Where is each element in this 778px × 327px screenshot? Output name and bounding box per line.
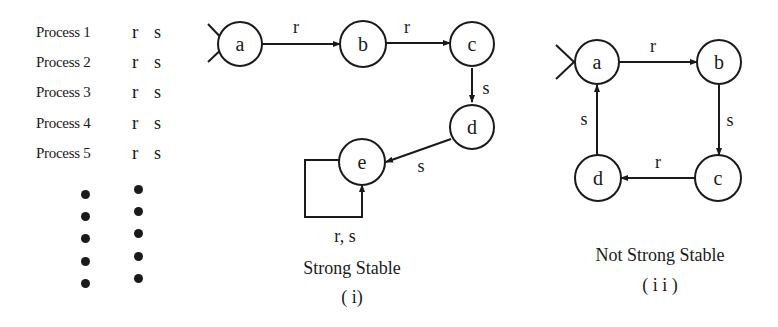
state-node-b: b (697, 40, 741, 84)
state-node-d: d (575, 155, 621, 201)
svg-text:a: a (236, 33, 245, 55)
state-node-c: c (450, 22, 494, 66)
edge-label-e-e: r, s (334, 226, 355, 246)
svg-text:c: c (714, 167, 723, 189)
edge-label-b-c: s (726, 110, 733, 130)
state-node-d: d (450, 105, 494, 149)
edge-label-b-c: r (404, 17, 410, 37)
caption-not-strong-stable: Not Strong Stable (596, 245, 725, 265)
state-node-a: a (218, 22, 262, 66)
figure-label-i: ( i) (341, 287, 363, 308)
edge-label-d-a: s (580, 109, 587, 129)
figure-label-ii: ( i i ) (642, 275, 678, 296)
svg-text:d: d (593, 167, 603, 189)
edge-label-a-b: r (650, 36, 656, 56)
state-node-c: c (695, 155, 741, 201)
svg-text:a: a (593, 51, 602, 73)
caption-strong-stable: Strong Stable (303, 258, 401, 278)
state-node-b: b (340, 21, 386, 67)
diagram-not-strong-stable: r s r s a b c d Not Strong Stable ( i i … (556, 36, 741, 296)
edge-label-c-d: r (655, 152, 661, 172)
svg-text:e: e (358, 151, 367, 173)
svg-text:b: b (358, 33, 368, 55)
svg-text:d: d (467, 116, 477, 138)
edge-label-a-b: r (293, 17, 299, 37)
state-node-e: e (339, 139, 385, 185)
edge-label-d-e: s (417, 156, 424, 176)
edge-label-c-d: s (482, 78, 489, 98)
start-state-marker-icon (556, 45, 574, 79)
state-node-a: a (575, 40, 619, 84)
diagram-strong-stable: r r s s r, s a b c d e Strong (208, 17, 494, 308)
svg-text:b: b (714, 51, 724, 73)
svg-text:c: c (468, 33, 477, 55)
state-diagrams: r r s s r, s a b c d e Strong (0, 0, 778, 327)
